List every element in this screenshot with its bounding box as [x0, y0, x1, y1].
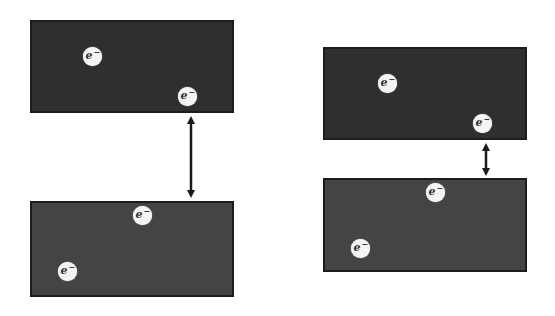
arrows-layer: [0, 0, 555, 316]
